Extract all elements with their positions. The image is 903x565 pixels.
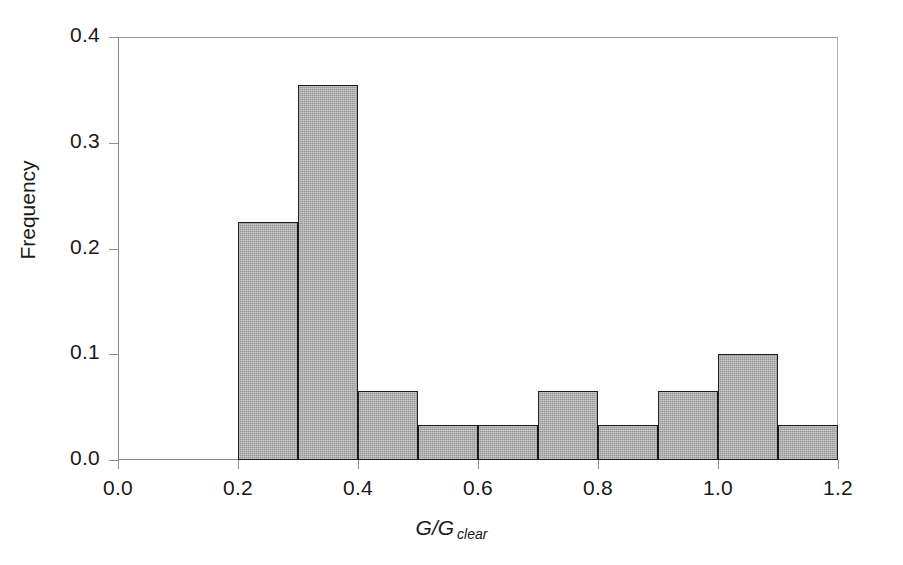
x-tick-mark <box>598 460 599 469</box>
histogram-bar <box>778 425 838 460</box>
x-tick-label: 1.0 <box>678 476 758 500</box>
x-tick-mark <box>478 460 479 469</box>
histogram-bar <box>538 391 598 460</box>
x-axis-title-main: G/G <box>416 516 455 539</box>
x-tick-mark <box>118 460 119 469</box>
y-tick-mark <box>109 37 118 38</box>
x-tick-label: 0.2 <box>198 476 278 500</box>
x-tick-mark <box>238 460 239 469</box>
x-tick-mark <box>838 460 839 469</box>
histogram-bar <box>598 425 658 460</box>
x-tick-label: 0.4 <box>318 476 398 500</box>
y-tick-mark <box>109 460 118 461</box>
y-tick-mark <box>109 249 118 250</box>
histogram-bar <box>238 222 298 460</box>
y-tick-label: 0.3 <box>0 129 100 153</box>
bars-layer <box>118 37 838 460</box>
y-tick-mark <box>109 354 118 355</box>
y-tick-label: 0.4 <box>0 23 100 47</box>
histogram-bar <box>358 391 418 460</box>
histogram-bar <box>718 354 778 460</box>
x-tick-mark <box>718 460 719 469</box>
y-tick-label: 0.0 <box>0 446 100 470</box>
x-tick-mark <box>358 460 359 469</box>
x-tick-label: 0.8 <box>558 476 638 500</box>
histogram-bar <box>478 425 538 460</box>
y-tick-mark <box>109 143 118 144</box>
x-tick-label: 0.6 <box>438 476 518 500</box>
x-tick-label: 1.2 <box>798 476 878 500</box>
x-axis-title: G/Gclear <box>0 516 903 540</box>
x-axis-title-subscript: clear <box>454 526 487 542</box>
histogram-bar <box>658 391 718 460</box>
histogram-bar <box>418 425 478 460</box>
y-tick-label: 0.1 <box>0 340 100 364</box>
y-axis-title: Frequency <box>16 110 40 310</box>
x-tick-label: 0.0 <box>78 476 158 500</box>
histogram-bar <box>298 85 358 460</box>
histogram-figure: 0.00.10.20.30.4 0.00.20.40.60.81.01.2 Fr… <box>0 0 903 565</box>
y-tick-label: 0.2 <box>0 235 100 259</box>
